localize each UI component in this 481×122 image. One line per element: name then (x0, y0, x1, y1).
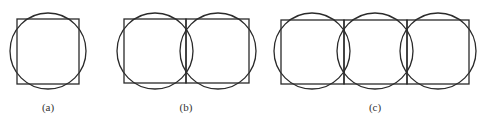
panel-label-c: (c) (369, 101, 382, 114)
panel-c: (c) (274, 13, 476, 114)
circle-b-1 (117, 13, 193, 89)
circle-c-3 (400, 13, 476, 89)
panel-b: (b) (117, 13, 256, 114)
square-c-3 (407, 20, 469, 84)
square-c-2 (344, 20, 407, 84)
panel-a: (a) (10, 13, 86, 114)
circle-a-1 (10, 13, 86, 89)
panel-label-a: (a) (42, 101, 55, 114)
square-b-2 (186, 19, 249, 83)
circle-c-1 (274, 13, 350, 89)
square-c-1 (281, 20, 344, 84)
square-b-1 (124, 19, 186, 83)
circle-b-2 (180, 13, 256, 89)
panel-label-b: (b) (180, 101, 193, 114)
square-a-1 (17, 19, 79, 84)
circle-c-2 (337, 13, 413, 89)
diagram-canvas: (a) (b) (c) (0, 0, 481, 122)
